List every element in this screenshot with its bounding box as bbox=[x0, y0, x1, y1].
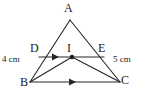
vertex-label-E: E bbox=[98, 42, 105, 54]
vertex-label-A: A bbox=[64, 2, 73, 14]
geometry-figure: A B C D E I 4 cm 5 cm bbox=[0, 0, 147, 93]
segment-BI-line bbox=[30, 57, 72, 82]
vertex-label-D: D bbox=[30, 42, 39, 54]
point-I-dot bbox=[70, 55, 74, 59]
vertex-label-I: I bbox=[67, 42, 71, 54]
vertex-label-C: C bbox=[121, 74, 129, 86]
measure-label-bd: 4 cm bbox=[2, 55, 20, 64]
side-AC-line bbox=[70, 20, 120, 82]
parallel-arrow-marker-bc-icon bbox=[69, 79, 76, 86]
measure-label-ec: 5 cm bbox=[113, 55, 131, 64]
parallel-arrow-marker-de-icon bbox=[52, 54, 59, 61]
vertex-label-B: B bbox=[20, 76, 28, 88]
